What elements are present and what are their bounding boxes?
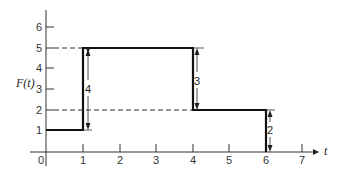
x-tick-7: 7 [299,154,305,166]
jump-label-4: 4 [85,83,91,95]
x-tick-2: 2 [117,154,123,166]
x-tick-0: 0 [38,154,44,166]
x-axis-label: t [324,144,328,158]
x-tick-5: 5 [226,154,232,166]
y-tick-1: 1 [36,124,42,136]
step-function-line [46,48,266,152]
x-tick-3: 3 [153,154,159,166]
x-tick-4: 4 [190,154,196,166]
jump-annotation-2: 2 [266,110,275,152]
jump-label-2: 2 [267,124,273,136]
jump-annotation-4: 4 [84,49,92,130]
y-tick-4: 4 [36,62,42,74]
y-tick-5: 5 [36,42,42,54]
x-tick-6: 6 [263,154,269,166]
y-tick-2: 2 [36,104,42,116]
y-axis-label: F(t) [15,76,35,90]
jump-annotation-3: 3 [193,48,204,110]
y-tick-3: 3 [36,83,42,95]
y-tick-6: 6 [36,21,42,33]
jump-label-3: 3 [194,75,200,87]
y-ticks [46,27,54,130]
step-function-diagram: 6 5 4 3 2 1 0 1 2 3 4 5 6 7 F(t) t 4 3 [0,0,344,171]
x-tick-1: 1 [80,154,86,166]
